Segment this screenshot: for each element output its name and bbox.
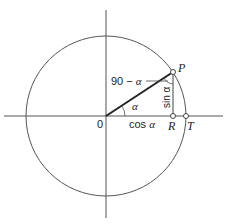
origin-label: 0	[97, 118, 103, 130]
point-p-marker	[171, 70, 176, 75]
point-p-label: P	[177, 61, 186, 75]
cos-label: cosα	[129, 118, 155, 130]
complement-symbol: α	[136, 75, 142, 87]
unit-circle-diagram: 0 P R T α 90 −α sin α cosα	[0, 0, 233, 224]
cos-symbol: α	[149, 118, 155, 130]
angle-arc-alpha	[122, 106, 125, 116]
point-t-label: T	[187, 119, 195, 133]
sin-label: sin α	[161, 86, 172, 108]
cos-prefix: cos	[129, 118, 147, 130]
complement-prefix: 90 −	[111, 75, 133, 87]
point-t-marker	[184, 114, 189, 119]
point-r-label: R	[167, 119, 176, 133]
angle-alpha-label: α	[132, 100, 138, 112]
point-r-marker	[171, 114, 176, 119]
complement-label: 90 −α	[111, 75, 142, 87]
